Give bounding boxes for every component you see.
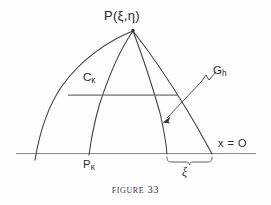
label-p-base: P (83, 158, 91, 170)
curve-g-h (133, 31, 212, 154)
label-axis-x-equals-zero: x = O (218, 138, 247, 149)
label-apex-text: P(ξ,η) (104, 8, 140, 23)
label-p-subscript: κ (91, 163, 95, 172)
label-xi-interval: ξ (182, 166, 187, 178)
label-apex-point: P(ξ,η) (104, 9, 140, 22)
caption-number: 33 (148, 184, 160, 195)
inner-right-curve (133, 31, 167, 154)
figure-drawing (0, 0, 271, 205)
label-g-base: G (213, 64, 222, 76)
label-point-p-kappa: Pκ (83, 159, 95, 172)
xi-brace (167, 157, 212, 165)
label-c-subscript: κ (91, 76, 95, 85)
label-g-subscript: h (222, 69, 227, 78)
figure-caption: Figure 33 (0, 183, 271, 195)
label-curve-c-kappa: Cκ (83, 72, 95, 85)
apex-point-marker (131, 29, 134, 32)
curve-c-kappa (89, 31, 133, 155)
caption-word: Figure (112, 183, 145, 195)
g-h-leader-arrowhead (163, 117, 171, 124)
label-curve-g-h: Gh (213, 65, 227, 78)
figure-container: P(ξ,η) Cκ Gh Pκ x = O ξ Figure 33 (0, 0, 271, 205)
